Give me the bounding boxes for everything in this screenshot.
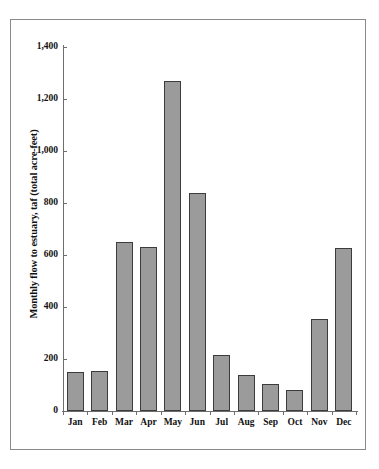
x-tick-mark	[356, 411, 357, 415]
x-tick-label-nov: Nov	[307, 417, 331, 427]
bar-jan	[67, 372, 84, 411]
bar-mar	[116, 242, 133, 411]
x-tick-label-aug: Aug	[234, 417, 258, 427]
y-axis-title: Monthly flow to estuary, taf (total acre…	[26, 74, 42, 374]
y-tick-label: 400	[18, 301, 58, 311]
x-tick-label-jul: Jul	[210, 417, 234, 427]
x-tick-label-apr: Apr	[136, 417, 160, 427]
x-tick-label-sep: Sep	[258, 417, 282, 427]
x-tick-mark	[185, 411, 186, 415]
bar-aug	[238, 375, 255, 411]
x-tick-label-may: May	[161, 417, 185, 427]
x-tick-mark	[234, 411, 235, 415]
x-tick-mark	[136, 411, 137, 415]
y-tick-label: 1,200	[18, 93, 58, 103]
x-tick-label-jun: Jun	[185, 417, 209, 427]
y-tick-label: 1,400	[18, 41, 58, 51]
y-tick-label: 600	[18, 249, 58, 259]
x-tick-mark	[283, 411, 284, 415]
bar-feb	[91, 371, 108, 411]
x-tick-mark	[112, 411, 113, 415]
x-tick-mark	[258, 411, 259, 415]
plot-area	[63, 47, 356, 411]
bar-jul	[213, 355, 230, 411]
bar-sep	[262, 384, 279, 411]
y-tick-label: 800	[18, 197, 58, 207]
x-tick-label-feb: Feb	[87, 417, 111, 427]
x-tick-mark	[87, 411, 88, 415]
x-tick-label-jan: Jan	[63, 417, 87, 427]
x-tick-label-mar: Mar	[112, 417, 136, 427]
x-tick-mark	[210, 411, 211, 415]
x-tick-mark	[332, 411, 333, 415]
bar-dec	[335, 248, 352, 411]
y-tick-label: 200	[18, 353, 58, 363]
figure: Monthly flow to estuary, taf (total acre…	[0, 0, 379, 469]
bar-apr	[140, 247, 157, 411]
bar-oct	[286, 390, 303, 411]
bar-jun	[189, 193, 206, 411]
x-tick-mark	[63, 411, 64, 415]
x-tick-mark	[161, 411, 162, 415]
x-tick-label-dec: Dec	[332, 417, 356, 427]
y-tick-label: 1,000	[18, 145, 58, 155]
x-tick-mark	[307, 411, 308, 415]
x-tick-label-oct: Oct	[283, 417, 307, 427]
y-tick-label: 0	[18, 405, 58, 415]
bar-may	[164, 81, 181, 411]
bar-nov	[311, 319, 328, 411]
